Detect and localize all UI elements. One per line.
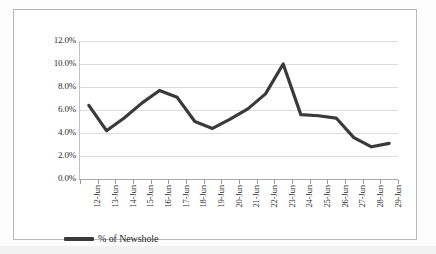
y-axis-tick-label: 0.0% [32, 173, 76, 183]
x-axis-tick-label: 15-Jun [145, 185, 155, 208]
scan-edge [0, 246, 436, 254]
x-axis-tick-label: 28-Jun [375, 185, 385, 208]
x-axis-tick [98, 180, 99, 184]
legend-label-newshole: % of Newshole [98, 233, 158, 244]
x-axis-tick [239, 180, 240, 184]
x-axis-tick [186, 180, 187, 184]
y-axis-labels: 12.0%10.0%8.0%6.0%4.0%2.0%0.0% [28, 41, 76, 179]
x-axis-tick-label: 16-Jun [163, 185, 173, 208]
x-axis-tick [257, 180, 258, 184]
y-axis-tick-label: 10.0% [32, 58, 76, 68]
x-axis-tick-label: 25-Jun [322, 185, 332, 208]
x-axis-tick-label: 21-Jun [251, 185, 261, 208]
x-axis-labels: 12-Jun13-Jun14-Jun15-Jun16-Jun17-Jun18-J… [80, 185, 398, 233]
x-axis-tick-label: 27-Jun [357, 185, 367, 208]
x-axis-tick [327, 180, 328, 184]
x-axis-tick [168, 180, 169, 184]
x-axis-tick [345, 180, 346, 184]
series-line [89, 64, 389, 147]
x-axis-tick [310, 180, 311, 184]
chart-legend: % of Newshole [64, 233, 158, 244]
y-axis-tick-label: 2.0% [32, 150, 76, 160]
x-axis-tick [221, 180, 222, 184]
x-axis-tick-label: 14-Jun [128, 185, 138, 208]
x-axis-tick [204, 180, 205, 184]
x-axis-tick-label: 20-Jun [234, 185, 244, 208]
chart-page: 12.0%10.0%8.0%6.0%4.0%2.0%0.0% 12-Jun13-… [0, 0, 436, 254]
x-axis-tick [80, 180, 81, 184]
x-axis-tick-label: 26-Jun [340, 185, 350, 208]
y-axis-tick-label: 12.0% [32, 35, 76, 45]
chart-frame: 12.0%10.0%8.0%6.0%4.0%2.0%0.0% 12-Jun13-… [13, 9, 417, 240]
x-axis-tick-label: 24-Jun [304, 185, 314, 208]
x-axis-tick-label: 22-Jun [269, 185, 279, 208]
y-axis-tick-label: 4.0% [32, 127, 76, 137]
line-series-newshole [80, 41, 398, 179]
x-axis-tick-label: 23-Jun [287, 185, 297, 208]
legend-line-swatch [64, 237, 94, 241]
x-axis-tick [133, 180, 134, 184]
x-axis-tick-label: 12-Jun [92, 185, 102, 208]
x-axis-tick-label: 29-Jun [393, 185, 403, 208]
plot-area [80, 41, 398, 179]
x-axis-tick [398, 180, 399, 184]
y-axis-tick-label: 8.0% [32, 81, 76, 91]
x-axis-tick [292, 180, 293, 184]
x-axis-tick-label: 13-Jun [110, 185, 120, 208]
x-axis-tick [363, 180, 364, 184]
x-axis-tick [380, 180, 381, 184]
x-axis-tick-label: 18-Jun [198, 185, 208, 208]
y-axis-tick-label: 6.0% [32, 104, 76, 114]
x-axis-tick [151, 180, 152, 184]
x-axis-tick [115, 180, 116, 184]
x-axis-tick-label: 17-Jun [181, 185, 191, 208]
x-axis-tick [274, 180, 275, 184]
x-axis-tick-label: 19-Jun [216, 185, 226, 208]
